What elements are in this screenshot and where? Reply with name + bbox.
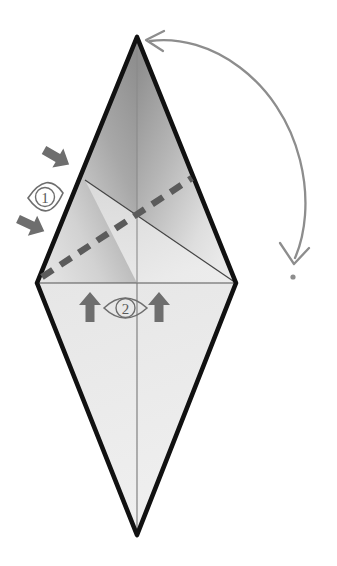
eye-marker-one: 1 bbox=[28, 183, 63, 211]
origami-diagram: 1 2 bbox=[0, 0, 337, 566]
fold-arrow-lower bbox=[13, 209, 49, 241]
step-one-number: 1 bbox=[41, 190, 49, 206]
step-two-number: 2 bbox=[122, 301, 130, 317]
rotate-target-dot bbox=[290, 274, 295, 279]
fold-arrow-upper bbox=[39, 140, 75, 174]
